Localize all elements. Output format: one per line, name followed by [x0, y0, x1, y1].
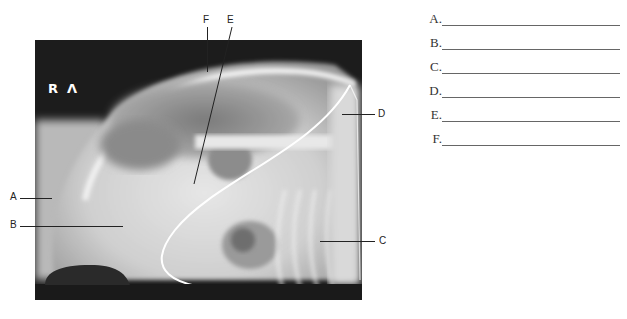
callout-c-label: C [379, 236, 386, 246]
orientation-marker-arrow: Λ [67, 82, 77, 95]
callout-d-leader [342, 114, 375, 115]
answer-row-f: F. [424, 131, 624, 155]
answer-row-a: A. [424, 11, 624, 35]
answer-letter: F. [424, 131, 442, 147]
answer-letter: B. [424, 35, 442, 51]
answer-letter: D. [424, 83, 442, 99]
callout-c-leader [320, 241, 375, 242]
answer-letter: A. [424, 11, 442, 27]
answer-letter: C. [424, 59, 442, 75]
answer-blank-e[interactable] [442, 121, 620, 122]
callout-d-label: D [378, 109, 385, 119]
answer-row-e: E. [424, 107, 624, 131]
callout-f-label: F [203, 15, 209, 25]
callout-a-leader [20, 198, 52, 199]
callout-a-label: A [10, 192, 17, 202]
answer-key: A. B. C. D. E. F. [424, 11, 624, 155]
answer-blank-f[interactable] [442, 145, 620, 146]
callout-b-label: B [10, 220, 17, 230]
answer-row-b: B. [424, 35, 624, 59]
answer-row-d: D. [424, 83, 624, 107]
callout-e-label: E [227, 15, 234, 25]
answer-blank-b[interactable] [442, 49, 620, 50]
answer-blank-c[interactable] [442, 73, 620, 74]
callout-e-leader [190, 26, 235, 186]
answer-blank-d[interactable] [442, 97, 620, 98]
callout-b-leader [20, 226, 123, 227]
orientation-marker-right: R [48, 82, 58, 95]
answer-blank-a[interactable] [442, 25, 620, 26]
answer-row-c: C. [424, 59, 624, 83]
answer-letter: E. [424, 107, 442, 123]
